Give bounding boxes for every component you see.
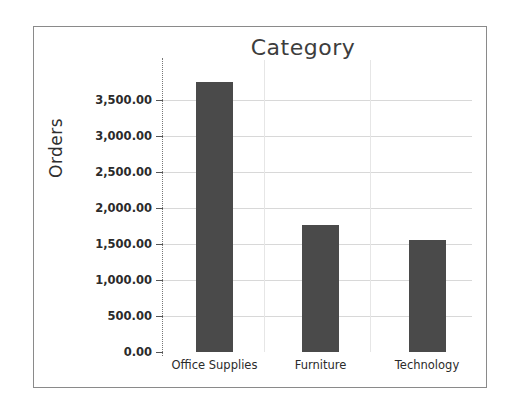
y-axis-tick: [156, 208, 163, 209]
x-axis-category-label: Technology: [395, 358, 459, 372]
y-axis-tick: [156, 316, 163, 317]
y-axis-title: Orders: [46, 118, 66, 178]
y-axis-tick: [156, 352, 163, 353]
y-axis-tick-labels: 0.00500.001,000.001,500.002,000.002,500.…: [58, 0, 152, 411]
y-axis-tick-label: 0.00: [60, 345, 152, 359]
y-axis-tick-label: 1,000.00: [60, 273, 152, 287]
y-axis-tick-label: 2,500.00: [60, 165, 152, 179]
x-axis-category-label: Furniture: [295, 358, 347, 372]
y-axis-tick: [156, 136, 163, 137]
chart-container: Category 0.00500.001,000.001,500.002,000…: [0, 0, 511, 411]
y-axis-tick-label: 3,500.00: [60, 93, 152, 107]
y-axis-tick-label: 1,500.00: [60, 237, 152, 251]
y-axis-tick: [156, 280, 163, 281]
y-axis-tick-label: 500.00: [60, 309, 152, 323]
bar[interactable]: [409, 240, 446, 352]
bar[interactable]: [302, 225, 339, 352]
y-axis-tick-label: 2,000.00: [60, 201, 152, 215]
bar[interactable]: [196, 82, 233, 352]
y-axis-tick: [156, 100, 163, 101]
y-axis-tick-label: 3,000.00: [60, 129, 152, 143]
y-axis-tick: [156, 244, 163, 245]
x-axis-category-label: Office Supplies: [172, 358, 258, 372]
y-axis-tick: [156, 172, 163, 173]
bars-layer: [163, 60, 472, 352]
